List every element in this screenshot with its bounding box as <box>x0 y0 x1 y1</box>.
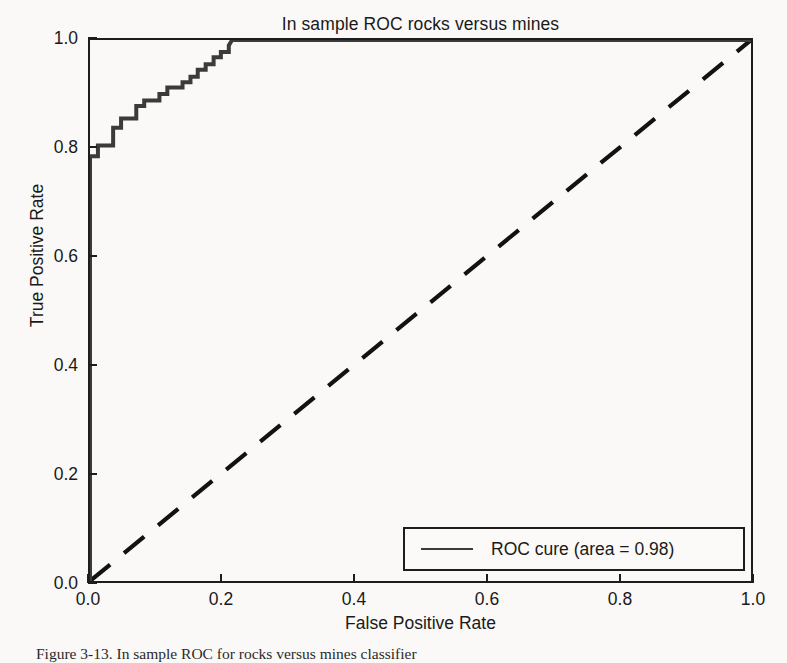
y-tick-mark <box>88 364 97 366</box>
y-tick-label: 0.4 <box>54 355 78 376</box>
legend-line-swatch <box>421 548 473 550</box>
x-tick-label: 0.0 <box>76 589 100 610</box>
figure-caption: Figure 3-13. In sample ROC for rocks ver… <box>36 645 776 663</box>
y-tick-label: 1.0 <box>54 28 78 49</box>
chance-diagonal-line <box>90 40 751 581</box>
y-tick-mark <box>88 255 97 257</box>
y-tick-mark <box>88 473 97 475</box>
chart-title: In sample ROC rocks versus mines <box>88 14 753 35</box>
x-tick-label: 0.4 <box>342 589 366 610</box>
plot-inner <box>90 40 751 581</box>
x-tick-label: 1.0 <box>741 589 765 610</box>
y-tick-mark <box>88 146 97 148</box>
x-tick-mark <box>752 574 754 583</box>
y-tick-label: 0.6 <box>54 246 78 267</box>
x-tick-label: 0.8 <box>608 589 632 610</box>
x-tick-mark <box>619 574 621 583</box>
x-tick-mark <box>486 574 488 583</box>
y-tick-mark <box>88 582 97 584</box>
legend-entry-label: ROC cure (area = 0.98) <box>491 539 674 560</box>
y-tick-label: 0.0 <box>54 573 78 594</box>
y-tick-mark <box>88 37 97 39</box>
y-tick-label: 0.2 <box>54 464 78 485</box>
plot-area <box>88 38 753 583</box>
x-tick-label: 0.2 <box>209 589 233 610</box>
x-tick-mark <box>220 574 222 583</box>
y-axis-label: True Positive Rate <box>27 156 48 356</box>
y-tick-label: 0.8 <box>54 137 78 158</box>
x-tick-mark <box>353 574 355 583</box>
roc-figure: In sample ROC rocks versus mines 0.00.20… <box>0 0 787 640</box>
x-axis-label: False Positive Rate <box>88 613 753 634</box>
legend-box: ROC cure (area = 0.98) <box>403 527 745 571</box>
x-tick-label: 0.6 <box>475 589 499 610</box>
plot-canvas <box>90 40 751 581</box>
